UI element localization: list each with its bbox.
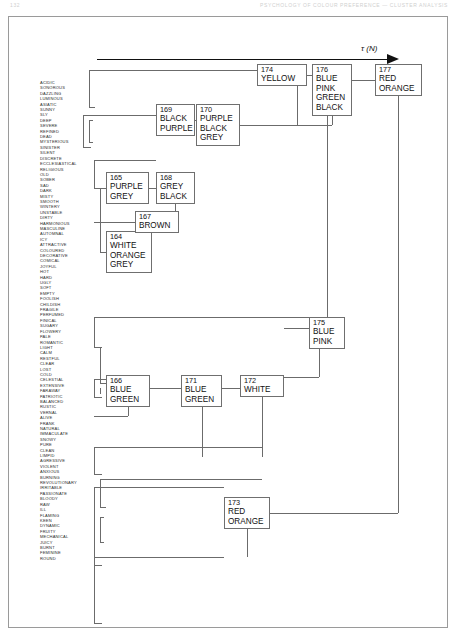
cluster-node-164[interactable]: 164WHITEORANGEGREY <box>106 231 152 273</box>
link-177-down <box>398 96 399 513</box>
leaf-bracket-173-b <box>94 557 95 623</box>
cluster-node-170[interactable]: 170PURPLEBLACKGREY <box>196 104 240 146</box>
link-166-171 <box>150 388 181 389</box>
link-173-down <box>247 529 248 557</box>
cluster-node-member: ORANGE <box>379 84 421 93</box>
cluster-node-id: 167 <box>139 213 178 221</box>
link-167-up <box>175 204 176 211</box>
cluster-node-member: ORANGE <box>110 251 151 260</box>
leaf-branch-174-bottom <box>89 107 95 108</box>
cluster-node-168[interactable]: 168GREYBLACK <box>156 172 195 204</box>
leaf-branch-173-bottom <box>94 565 102 566</box>
leaf-bracket-166-b <box>100 347 101 383</box>
cluster-node-member: BLACK <box>200 124 239 133</box>
cluster-node-176[interactable]: 176BLUEPINKGREENBLACK <box>312 64 352 116</box>
cluster-node-member: BLUE <box>185 385 221 394</box>
cluster-node-member: PURPLE <box>160 124 194 133</box>
leaf-bracket-169-outer <box>83 115 84 147</box>
cluster-node-174[interactable]: 174YELLOW <box>257 64 307 86</box>
link-170-176-v <box>332 116 333 125</box>
leaf-bracket-169-inner <box>89 120 90 142</box>
cluster-node-id: 172 <box>244 377 283 385</box>
cluster-node-member: BLUE <box>313 327 344 336</box>
axis-label-tau: τ (N) <box>361 44 377 53</box>
cluster-node-id: 166 <box>110 377 149 385</box>
cluster-node-member: WHITE <box>110 241 151 250</box>
cluster-node-171[interactable]: 171BLUEGREEN <box>181 375 222 407</box>
leaf-bracket-164-outer <box>100 188 101 252</box>
leaf-bracket-165 <box>94 160 95 188</box>
cluster-node-member: BROWN <box>139 221 178 230</box>
cluster-node-member: BLACK <box>160 114 194 123</box>
cluster-node-member: BLUE <box>110 385 149 394</box>
leaf-branch-173-inner-top <box>100 517 104 518</box>
cluster-node-169[interactable]: 169BLACKPURPLE <box>156 104 195 136</box>
cluster-node-member: GREEN <box>185 395 221 404</box>
leaf-branch-166-c-top <box>94 379 106 380</box>
link-173-177 <box>270 513 398 514</box>
cluster-node-member: GREY <box>200 133 239 142</box>
leaf-bracket-166-c <box>94 379 95 397</box>
cluster-node-173[interactable]: 173REDORANGE <box>224 497 270 529</box>
cluster-node-165[interactable]: 165PURPLEGREY <box>106 172 149 204</box>
link-171-172 <box>222 388 240 389</box>
tau-axis-line <box>97 59 389 60</box>
cluster-node-175[interactable]: 175BLUEPINK <box>309 317 345 349</box>
cluster-node-id: 168 <box>160 174 194 182</box>
leaf-branch-165-top <box>94 160 156 161</box>
cluster-node-member: BLACK <box>160 192 194 201</box>
page-running-header: 132 PSYCHOLOGY OF COLOUR PREFERENCE — CL… <box>0 0 456 14</box>
cluster-node-177[interactable]: 177REDORANGE <box>375 64 422 96</box>
cluster-node-member: RED <box>228 507 269 516</box>
cluster-node-id: 164 <box>110 233 151 241</box>
cluster-node-166[interactable]: 166BLUEGREEN <box>106 375 150 407</box>
figure-frame: τ (N) ACIDICSONOROUSDAZZLINGLUMINOUSASIA… <box>8 16 448 628</box>
cluster-node-member: ORANGE <box>228 517 269 526</box>
leaf-branch-lower-b-bottom <box>100 507 106 508</box>
leaf-bracket-166-a <box>94 317 95 347</box>
leaf-branch-166-c-bottom <box>94 397 102 398</box>
link-174-down-h <box>257 125 297 126</box>
link-to-167 <box>94 222 135 223</box>
cluster-node-member: PINK <box>316 84 351 93</box>
link-176-175 <box>327 116 328 317</box>
cluster-node-id: 170 <box>200 106 239 114</box>
link-175-down <box>319 349 320 377</box>
cluster-node-member: GREY <box>110 192 148 201</box>
cluster-node-id: 174 <box>261 66 306 74</box>
link-165-168 <box>149 188 156 189</box>
link-172-down <box>262 397 263 457</box>
link-171-down <box>202 407 203 457</box>
link-172-175 <box>284 328 309 329</box>
leaf-branch-lower-b-top <box>100 479 262 480</box>
cluster-node-member: BLACK <box>316 103 351 112</box>
leaf-branch-169-inner-bottom <box>89 142 93 143</box>
cluster-node-member: GREEN <box>110 395 149 404</box>
cluster-node-member: RED <box>379 74 421 83</box>
leaf-branch-169-bottom <box>83 147 91 148</box>
leaf-branch-173-b-top <box>94 557 224 558</box>
leaf-branch-173-inner-bottom <box>100 542 104 543</box>
cluster-node-172[interactable]: 172WHITE <box>240 375 284 397</box>
link-176-177 <box>352 80 375 81</box>
cluster-node-member: BLUE <box>316 74 351 83</box>
cluster-node-member: GREY <box>160 182 194 191</box>
cluster-node-id: 169 <box>160 106 194 114</box>
cluster-node-member: GREEN <box>316 93 351 102</box>
link-166-down-h <box>94 416 128 417</box>
cluster-node-member: GREY <box>110 260 151 269</box>
leaf-bracket-166-d <box>100 388 101 394</box>
leaf-branch-169-inner-top <box>89 120 93 121</box>
cluster-node-member: YELLOW <box>261 74 306 83</box>
page-folio: 132 <box>10 2 20 8</box>
cluster-node-member: PURPLE <box>110 182 148 191</box>
leaf-label: ROUND <box>40 556 102 561</box>
leaf-branch-lower-a-bottom <box>94 474 102 475</box>
leaf-branch-173-b-bottom <box>94 623 102 624</box>
leaf-bracket-lower-a <box>94 447 95 474</box>
leaf-bracket-lower-b <box>100 479 101 507</box>
cluster-node-167[interactable]: 167BROWN <box>135 211 179 233</box>
link-174-down <box>297 86 298 125</box>
cluster-node-id: 176 <box>316 66 351 74</box>
leaf-branch-173-top <box>94 487 224 488</box>
